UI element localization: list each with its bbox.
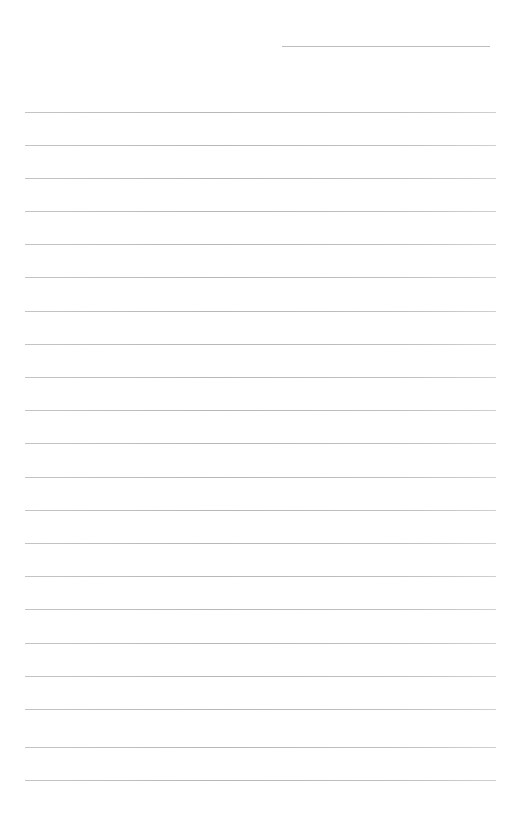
ruled-line xyxy=(25,576,496,577)
ruled-line xyxy=(25,510,496,511)
ruled-line xyxy=(25,676,496,677)
ruled-line xyxy=(25,780,496,781)
ruled-line xyxy=(25,747,496,748)
ruled-line xyxy=(25,377,496,378)
ruled-line xyxy=(25,643,496,644)
header-rule-line xyxy=(282,46,490,47)
ruled-line xyxy=(25,145,496,146)
ruled-line xyxy=(25,311,496,312)
ruled-line xyxy=(25,178,496,179)
ruled-line xyxy=(25,443,496,444)
ruled-line xyxy=(25,211,496,212)
ruled-line xyxy=(25,477,496,478)
ruled-line xyxy=(25,112,496,113)
ruled-line xyxy=(25,244,496,245)
ruled-line xyxy=(25,609,496,610)
ruled-line xyxy=(25,344,496,345)
ruled-line xyxy=(25,410,496,411)
ruled-line xyxy=(25,543,496,544)
ruled-paper-sheet xyxy=(0,0,518,813)
ruled-line xyxy=(25,277,496,278)
ruled-line xyxy=(25,709,496,710)
